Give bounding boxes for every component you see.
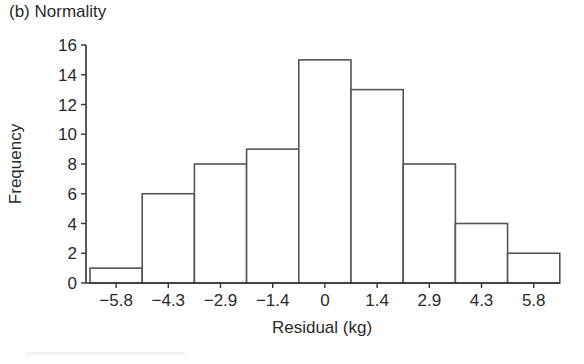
- histogram-bar: [508, 253, 560, 283]
- histogram-bar: [403, 164, 455, 283]
- x-tick-label: 5.8: [522, 291, 546, 310]
- y-tick-label: 2: [68, 244, 77, 263]
- histogram-bar: [299, 60, 351, 283]
- x-tick-label: −4.3: [152, 291, 186, 310]
- histogram-bar: [194, 164, 246, 283]
- histogram-chart: 0246810121416−5.8−4.3−2.9−1.401.42.94.35…: [0, 0, 584, 364]
- x-tick-label: 1.4: [365, 291, 389, 310]
- x-tick-label: −2.9: [204, 291, 238, 310]
- y-tick-label: 0: [68, 274, 77, 293]
- histogram-bar: [455, 224, 507, 284]
- cropped-caption-fragment: [25, 352, 185, 355]
- histogram-bar: [90, 268, 142, 283]
- y-tick-label: 16: [58, 36, 77, 55]
- y-tick-label: 10: [58, 125, 77, 144]
- y-tick-label: 8: [68, 155, 77, 174]
- y-tick-label: 6: [68, 185, 77, 204]
- bars-group: [90, 60, 560, 283]
- y-tick-label: 12: [58, 96, 77, 115]
- y-tick-label: 4: [68, 215, 77, 234]
- x-tick-label: 4.3: [470, 291, 494, 310]
- x-tick-label: 0: [320, 291, 329, 310]
- x-tick-label: −5.8: [99, 291, 133, 310]
- y-tick-label: 14: [58, 66, 77, 85]
- y-axis-label: Frequency: [6, 123, 25, 204]
- histogram-bar: [351, 90, 403, 283]
- histogram-bar: [247, 149, 299, 283]
- x-axis-label: Residual (kg): [272, 318, 372, 337]
- x-tick-label: 2.9: [417, 291, 441, 310]
- histogram-bar: [142, 194, 194, 283]
- x-tick-label: −1.4: [256, 291, 290, 310]
